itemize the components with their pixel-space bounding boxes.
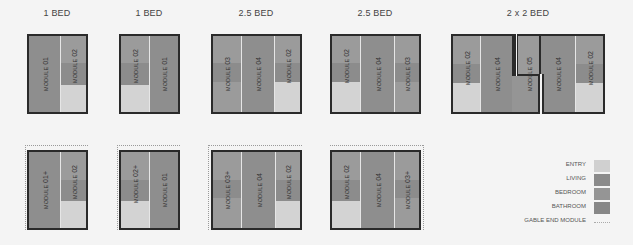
module-label: MODULE 02+	[132, 165, 139, 203]
entry-swatch	[594, 160, 610, 172]
entry-zone	[576, 83, 603, 112]
gable-end-line	[330, 145, 423, 146]
floor-plan-2-5bed-gable-b[interactable]: MODULE 02 MODULE 04 MODULE 03+	[330, 150, 421, 230]
floor-plan-2-5bed-a[interactable]: MODULE 03 MODULE 04 MODULE 02	[211, 34, 302, 114]
legend-entry: ENTRY	[520, 160, 610, 172]
module-bedroom[interactable]: MODULE 03	[213, 36, 241, 112]
plan-title-2x2bed: 2 x 2 BED	[468, 8, 588, 18]
floor-plan-1bed-a[interactable]: MODULE 01 MODULE 02	[27, 34, 88, 114]
module-living[interactable]: MODULE 01	[29, 36, 60, 112]
gable-dotted-line-icon	[594, 222, 610, 223]
module-label: MODULE 04	[255, 173, 262, 207]
legend-bedroom: BEDROOM	[520, 188, 610, 200]
module-bedroom[interactable]: MODULE 02	[575, 36, 603, 112]
legend-label: BATHROOM	[552, 203, 586, 209]
module-label: MODULE 02	[586, 51, 593, 85]
entry-zone	[276, 201, 300, 228]
module-living[interactable]: MODULE 04	[241, 152, 275, 228]
module-bedroom-gable[interactable]: MODULE 03+	[213, 152, 241, 228]
legend-label: GABLE END MODULE	[524, 217, 586, 223]
plan-title-2-5bed-a: 2.5 BED	[196, 8, 316, 18]
entry-zone	[275, 82, 300, 112]
module-living[interactable]: MODULE 04	[480, 36, 512, 112]
module-living-gable[interactable]: MODULE 01+	[29, 152, 60, 228]
bedroom-swatch	[594, 188, 610, 200]
unit-left[interactable]: MODULE 02 MODULE 04	[451, 34, 514, 114]
unit-right[interactable]: MODULE 04 MODULE 02	[539, 34, 605, 114]
entry-zone	[121, 201, 149, 228]
module-label: MODULE 02	[285, 165, 292, 199]
module-label: MODULE 04	[255, 57, 262, 91]
legend-label: BEDROOM	[555, 189, 586, 195]
module-label: MODULE 02	[70, 165, 77, 199]
module-living[interactable]: MODULE 04	[541, 36, 575, 112]
entry-zone	[453, 83, 480, 112]
legend-label: ENTRY	[566, 161, 586, 167]
module-label: MODULE 04	[555, 57, 562, 91]
module-label: MODULE 02	[463, 51, 470, 85]
module-bedroom[interactable]: MODULE 02	[121, 36, 149, 112]
gable-end-line	[25, 145, 88, 146]
module-bedroom[interactable]: MODULE 02	[332, 36, 360, 112]
module-living[interactable]: MODULE 04	[360, 36, 394, 112]
module-living[interactable]: MODULE 04	[241, 36, 274, 112]
gable-end-line	[423, 145, 424, 230]
module-living[interactable]: MODULE 04	[360, 152, 394, 228]
module-label: MODULE 01+	[41, 171, 48, 209]
legend-bathroom: BATHROOM	[520, 202, 610, 214]
floor-plan-1bed-b[interactable]: MODULE 02 MODULE 01	[119, 34, 180, 114]
module-label: MODULE 04	[493, 57, 500, 91]
gable-end-line	[209, 145, 302, 146]
legend-label: LIVING	[566, 175, 586, 181]
gable-end-line	[25, 145, 26, 230]
living-swatch	[594, 174, 610, 186]
module-label: MODULE 03	[224, 57, 231, 91]
bathroom-swatch	[594, 202, 610, 214]
legend-gable-end: GABLE END MODULE	[520, 216, 610, 228]
module-label: MODULE 01	[161, 57, 168, 91]
entry-zone	[332, 82, 360, 112]
floor-plan-1bed-gable-a[interactable]: MODULE 01+ MODULE 02	[27, 150, 88, 230]
legend-living: LIVING	[520, 174, 610, 186]
floor-plan-2x2bed[interactable]: MODULE 02 MODULE 04 MODULE 05 MODULE 04 …	[451, 34, 605, 114]
module-label: MODULE 01	[41, 57, 48, 91]
entry-zone	[61, 85, 86, 112]
module-label: MODULE 02	[284, 49, 291, 83]
wall-right-unit	[542, 74, 544, 114]
module-bedroom[interactable]: MODULE 02	[332, 152, 360, 228]
gable-end-line	[208, 145, 209, 230]
entry-zone	[121, 85, 149, 112]
module-label: MODULE 04	[374, 57, 381, 91]
floor-plan-2-5bed-b[interactable]: MODULE 02 MODULE 04 MODULE 03	[330, 34, 421, 114]
floor-plan-1bed-gable-b[interactable]: MODULE 02+ MODULE 01	[119, 150, 180, 230]
module-bedroom[interactable]: MODULE 02	[60, 152, 86, 228]
module-label: MODULE 04	[374, 173, 381, 207]
module-label: MODULE 02	[132, 49, 139, 83]
entry-zone	[332, 201, 360, 228]
wall-left-unit	[514, 34, 516, 76]
module-bedroom[interactable]: MODULE 02	[453, 36, 480, 112]
module-bedroom[interactable]: MODULE 03	[394, 36, 419, 112]
plan-title-1bed-b: 1 BED	[89, 8, 209, 18]
floor-plan-2-5bed-gable-a[interactable]: MODULE 03+ MODULE 04 MODULE 02	[211, 150, 302, 230]
module-bedroom[interactable]: MODULE 02	[274, 36, 300, 112]
wall-step-lower	[538, 74, 540, 114]
module-living[interactable]: MODULE 01	[149, 36, 178, 112]
module-label: MODULE 05	[525, 57, 532, 91]
module-label: MODULE 03+	[404, 171, 411, 209]
module-bedroom-gable[interactable]: MODULE 03+	[394, 152, 419, 228]
module-living[interactable]: MODULE 01	[149, 152, 178, 228]
plan-title-2-5bed-b: 2.5 BED	[315, 8, 435, 18]
module-label: MODULE 03	[404, 57, 411, 91]
gable-end-line	[117, 145, 180, 146]
module-label: MODULE 02	[343, 165, 350, 199]
module-bedroom[interactable]: MODULE 02	[275, 152, 300, 228]
entry-zone	[61, 201, 86, 228]
gable-end-line	[117, 145, 118, 230]
module-bedroom-gable[interactable]: MODULE 02+	[121, 152, 149, 228]
module-bedroom[interactable]: MODULE 02	[60, 36, 86, 112]
module-label: MODULE 02	[70, 49, 77, 83]
module-label: MODULE 01	[161, 173, 168, 207]
module-label: MODULE 02	[343, 49, 350, 83]
module-label: MODULE 03+	[224, 171, 231, 209]
